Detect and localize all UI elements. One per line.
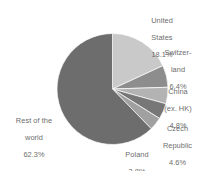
slice-label-switzerland-line1: Switzer- — [152, 49, 204, 58]
slice-label-rest-of-world: Rest of the world 62.3% — [2, 108, 66, 168]
pie-chart: United States 18.1% Switzer- land 6.4% C… — [0, 0, 209, 171]
slice-label-czech-line1: Czech — [150, 125, 205, 134]
slice-label-china-line2: (ex. HK) — [152, 105, 204, 114]
slice-value-rest: 62.3% — [2, 151, 66, 160]
slice-value-poland: 3.8% — [114, 168, 160, 171]
slice-label-rest-line1: Rest of the — [2, 117, 66, 126]
slice-label-poland: Poland 3.8% — [114, 142, 160, 171]
slice-label-united-states-line1: United — [138, 17, 186, 26]
slice-label-switzerland-line2: land — [152, 66, 204, 75]
slice-label-poland-line1: Poland — [114, 151, 160, 160]
slice-label-china-line1: China — [152, 88, 204, 97]
slice-label-rest-line2: world — [2, 134, 66, 143]
